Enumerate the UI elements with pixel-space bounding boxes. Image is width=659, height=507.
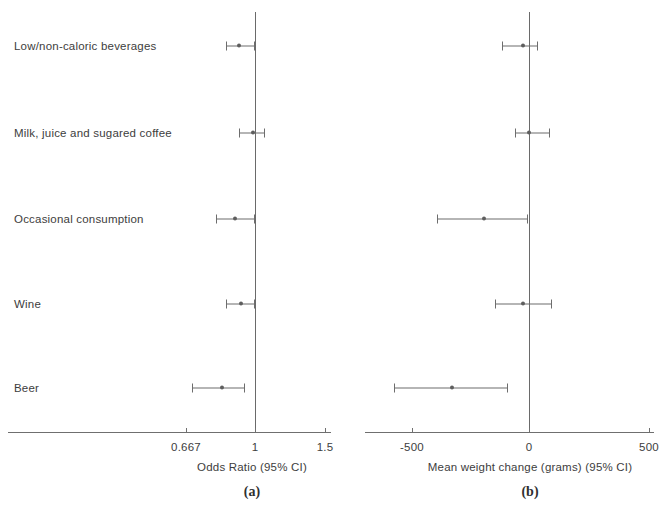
ci-upper-cap: [527, 215, 528, 224]
ci-lower-cap: [216, 215, 217, 224]
estimate-marker: [233, 216, 237, 220]
interval-panel-a-row-1: [239, 128, 265, 139]
panel-a-tick-0: [186, 428, 187, 433]
ci-upper-cap: [549, 129, 550, 138]
ci-upper-cap: [254, 215, 255, 224]
estimate-marker: [521, 301, 525, 305]
interval-panel-a-row-0: [226, 41, 255, 52]
ci-upper-cap: [254, 42, 255, 51]
category-label-2: Occasional consumption: [14, 213, 144, 225]
category-label-4: Beer: [14, 382, 39, 394]
panel-a-caption: (a): [244, 484, 260, 500]
interval-panel-b-row-1: [515, 128, 550, 139]
panel-a-plot-area: Low/non-caloric beverages Milk, juice an…: [0, 0, 334, 433]
panel-b-reference-line: [529, 12, 530, 433]
estimate-marker: [527, 130, 531, 134]
estimate-marker: [251, 130, 255, 134]
interval-panel-b-row-4: [394, 383, 508, 394]
estimate-marker: [239, 301, 243, 305]
estimate-marker: [220, 385, 224, 389]
ci-lower-cap: [226, 300, 227, 309]
ci-lower-cap: [239, 129, 240, 138]
category-label-1: Milk, juice and sugared coffee: [14, 127, 172, 139]
ci-lower-cap: [495, 300, 496, 309]
ci-upper-cap: [507, 384, 508, 393]
category-label-3: Wine: [14, 298, 41, 310]
panel-a-axis-line: [8, 432, 331, 433]
interval-panel-b-row-0: [502, 41, 538, 52]
panel-a-tick-label-2: 1.5: [317, 441, 334, 453]
panel-b-plot-area: [334, 0, 658, 433]
interval-panel-b-row-2: [437, 214, 528, 225]
panel-b-tick-label-2: 500: [639, 441, 659, 453]
estimate-marker: [482, 216, 486, 220]
estimate-marker: [237, 43, 241, 47]
ci-upper-cap: [244, 384, 245, 393]
estimate-marker: [521, 43, 525, 47]
interval-panel-a-row-2: [216, 214, 255, 225]
panel-b-tick-2: [649, 428, 650, 433]
panel-a: Low/non-caloric beverages Milk, juice an…: [0, 0, 334, 507]
ci-lower-cap: [502, 42, 503, 51]
panel-a-reference-line: [255, 12, 256, 433]
ci-lower-cap: [515, 129, 516, 138]
category-label-0: Low/non-caloric beverages: [14, 40, 156, 52]
panel-a-tick-label-1: 1: [252, 441, 259, 453]
panel-a-tick-2: [325, 428, 326, 433]
ci-lower-cap: [394, 384, 395, 393]
panel-b-tick-label-1: 0: [526, 441, 533, 453]
panel-a-tick-label-0: 0.667: [171, 441, 201, 453]
ci-lower-cap: [192, 384, 193, 393]
ci-upper-cap: [264, 129, 265, 138]
ci-bar: [192, 388, 245, 389]
ci-upper-cap: [254, 300, 255, 309]
ci-upper-cap: [551, 300, 552, 309]
panel-b-axis-title: Mean weight change (grams) (95% CI): [428, 461, 633, 473]
panel-b-tick-0: [412, 428, 413, 433]
panel-b: -500 0 500 Mean weight change (grams) (9…: [334, 0, 658, 507]
interval-panel-b-row-3: [495, 299, 552, 310]
panel-b-tick-label-0: -500: [400, 441, 424, 453]
ci-lower-cap: [437, 215, 438, 224]
ci-lower-cap: [226, 42, 227, 51]
ci-upper-cap: [537, 42, 538, 51]
ci-bar: [515, 133, 550, 134]
panel-b-axis-line: [365, 432, 654, 433]
interval-panel-a-row-3: [226, 299, 255, 310]
ci-bar: [502, 46, 538, 47]
panel-a-tick-1: [255, 428, 256, 433]
panel-b-caption: (b): [521, 484, 538, 500]
panel-b-tick-1: [529, 428, 530, 433]
interval-panel-a-row-4: [192, 383, 245, 394]
estimate-marker: [450, 385, 454, 389]
panel-a-axis-title: Odds Ratio (95% CI): [197, 461, 307, 473]
